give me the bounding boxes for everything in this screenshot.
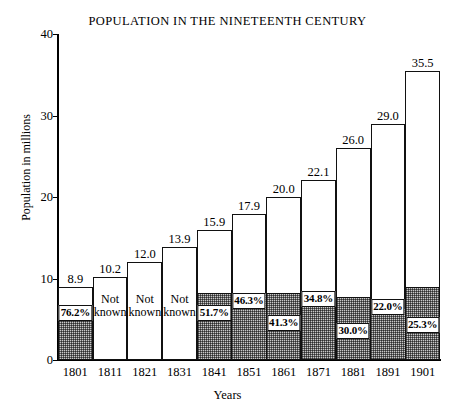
bar-shaded-segment [301, 298, 336, 361]
bar-1841[interactable]: 15.951.7% [197, 230, 232, 360]
x-tick-label-1811: 1811 [98, 366, 123, 379]
bar-1901[interactable]: 35.525.3% [405, 71, 440, 360]
bar-value-label: 13.9 [168, 233, 192, 245]
bar-1881[interactable]: 26.030.0% [336, 148, 371, 360]
y-tick-label: 40 [27, 28, 53, 40]
y-tick-label: 30 [27, 110, 53, 122]
x-tick-label-1881: 1881 [341, 366, 366, 379]
bar-percent-label: 51.7% [198, 305, 231, 321]
y-tick-mark [53, 360, 57, 361]
x-axis-label: Years [0, 388, 455, 403]
bar-percent-label: 34.8% [302, 291, 335, 307]
bar-value-label: 15.9 [202, 216, 226, 228]
bar-percent-label: 76.2% [59, 305, 92, 321]
x-tick-label-1821: 1821 [132, 366, 157, 379]
bar-shaded-segment [197, 293, 232, 360]
bar-value-label: 29.0 [376, 110, 400, 122]
bar-value-label: 22.1 [307, 166, 331, 178]
bar-percent-label: 30.0% [337, 323, 370, 339]
bar-percent-label: 41.3% [267, 315, 300, 331]
bar-1871[interactable]: 22.134.8% [301, 180, 336, 360]
bar-value-label: 17.9 [237, 200, 261, 212]
bar-1851[interactable]: 17.946.3% [232, 214, 267, 360]
bar-value-label: 20.0 [272, 183, 296, 195]
bar-percent-label: 46.3% [232, 293, 265, 309]
y-tick-mark [53, 34, 57, 35]
x-tick-label-1851: 1851 [237, 366, 262, 379]
y-tick-label: 0 [27, 354, 53, 366]
bar-shaded-segment [370, 308, 405, 360]
bar-value-label: 35.5 [411, 57, 435, 69]
x-tick-label-1831: 1831 [167, 366, 192, 379]
chart-title: POPULATION IN THE NINETEENTH CENTURY [0, 14, 455, 29]
bar-percent-label: 22.0% [371, 299, 404, 315]
y-tick-mark [53, 279, 57, 280]
x-tick-label-1901: 1901 [410, 366, 435, 379]
y-tick-label: 10 [27, 273, 53, 285]
x-tick-label-1891: 1891 [375, 366, 400, 379]
x-tick-label-1871: 1871 [306, 366, 331, 379]
plot-area: 8.976.2%10.2Not known12.0Not known13.9No… [58, 34, 440, 360]
bar-value-label: 10.2 [98, 263, 122, 275]
bar-1861[interactable]: 20.041.3% [266, 197, 301, 360]
y-tick-mark [53, 197, 57, 198]
y-axis-label: Population in millions [19, 68, 34, 268]
bar-1891[interactable]: 29.022.0% [371, 124, 406, 360]
bar-value-label: 8.9 [67, 273, 85, 285]
bar-value-label: 26.0 [341, 134, 365, 146]
chart-container: POPULATION IN THE NINETEENTH CENTURY Pop… [0, 0, 455, 413]
bar-notknown-label: Not known [158, 293, 202, 319]
bar-1831[interactable]: 13.9Not known [162, 247, 197, 360]
y-tick-label: 20 [27, 191, 53, 203]
x-tick-label-1861: 1861 [271, 366, 296, 379]
bar-value-label: 12.0 [133, 248, 157, 260]
bar-percent-label: 25.3% [406, 317, 439, 333]
y-tick-mark [53, 116, 57, 117]
x-tick-label-1841: 1841 [202, 366, 227, 379]
x-tick-label-1801: 1801 [63, 366, 88, 379]
